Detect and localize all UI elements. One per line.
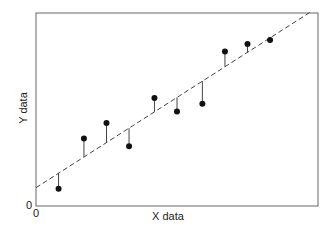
data-point (245, 41, 251, 47)
data-point (151, 95, 157, 101)
data-point (81, 135, 87, 141)
x-origin-tick: 0 (33, 207, 39, 219)
data-point (199, 101, 205, 107)
y-origin-tick: 0 (26, 199, 32, 211)
x-axis-label: X data (152, 210, 184, 222)
data-point (104, 120, 110, 126)
data-point (222, 49, 228, 55)
data-points (56, 37, 274, 192)
y-axis-label: Y data (17, 83, 29, 133)
scatter-plot (0, 0, 335, 233)
data-point (56, 186, 62, 192)
data-point (126, 143, 132, 149)
data-point (174, 108, 180, 114)
residual-lines (59, 38, 271, 189)
data-point (267, 37, 273, 43)
